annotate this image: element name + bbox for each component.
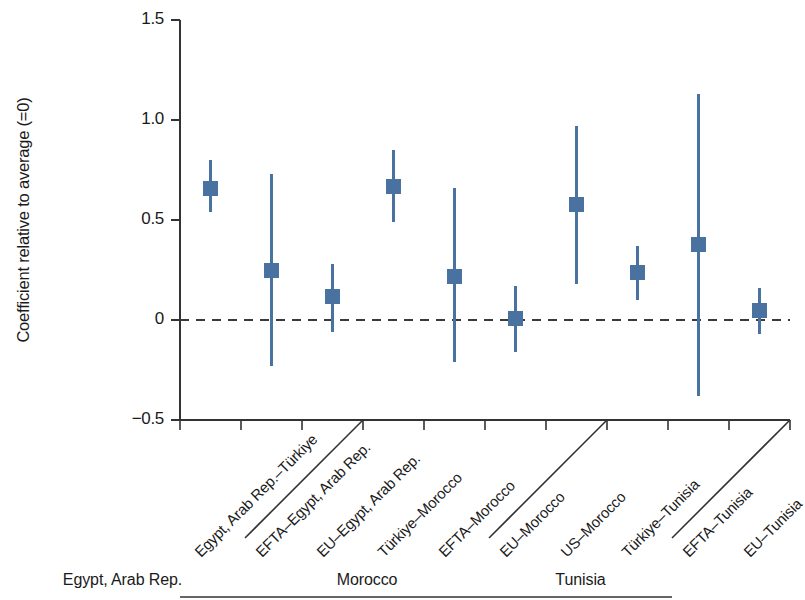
data-point-marker (386, 179, 401, 194)
y-tick-label: 0.5 (102, 209, 164, 229)
data-point-marker (325, 289, 340, 304)
data-point-marker (691, 237, 706, 252)
x-category-label: EU–Tunisia (740, 495, 805, 560)
data-point-marker (569, 197, 584, 212)
y-axis-title: Coefficient relative to average (=0) (8, 0, 38, 440)
x-group-label: Egypt, Arab Rep. (0, 571, 245, 589)
y-tick-label: 1.0 (102, 109, 164, 129)
data-point-marker (264, 263, 279, 278)
x-category-label: Egypt, Arab Rep.–Türkiye (191, 431, 320, 560)
data-point-marker (508, 311, 523, 326)
data-point-marker (752, 303, 767, 318)
x-category-label: EFTA–Egypt, Arab Rep. (252, 439, 373, 560)
y-tick-label: 0 (102, 309, 164, 329)
data-point-marker (630, 265, 645, 280)
data-point-marker (203, 181, 218, 196)
y-tick-label: 1.5 (102, 9, 164, 29)
y-tick-label: −0.5 (102, 409, 164, 429)
x-group-label: Tunisia (489, 571, 672, 589)
x-category-label: EU–Egypt, Arab Rep. (313, 450, 423, 560)
data-point-marker (447, 269, 462, 284)
x-group-label: Morocco (245, 571, 489, 589)
